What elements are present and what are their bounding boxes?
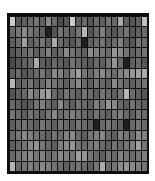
heatmap-cell — [100, 58, 105, 67]
heatmap-cell — [82, 38, 87, 47]
heatmap-cell — [130, 141, 135, 150]
heatmap-cell — [34, 58, 39, 67]
heatmap-cell — [58, 151, 63, 160]
heatmap-cell — [118, 58, 123, 67]
heatmap-cell — [46, 141, 51, 150]
heatmap-cell — [16, 48, 21, 57]
heatmap-cell — [70, 100, 75, 109]
heatmap-cell — [118, 69, 123, 78]
heatmap-cell — [118, 17, 123, 26]
heatmap-cell — [130, 89, 135, 98]
heatmap-cell — [64, 131, 69, 140]
heatmap-cell — [82, 48, 87, 57]
heatmap-cell — [46, 48, 51, 57]
heatmap-cell — [58, 100, 63, 109]
heatmap-cell — [130, 110, 135, 119]
heatmap-cell — [58, 27, 63, 36]
heatmap-cell — [82, 162, 87, 171]
heatmap-cell — [106, 141, 111, 150]
heatmap-cell — [94, 110, 99, 119]
heatmap-cell — [40, 79, 45, 88]
heatmap-cell — [136, 58, 141, 67]
heatmap-cell — [76, 120, 81, 129]
heatmap-cell — [46, 162, 51, 171]
heatmap-cell — [28, 141, 33, 150]
heatmap-cell — [52, 120, 57, 129]
heatmap-cell — [82, 58, 87, 67]
heatmap-cell — [40, 100, 45, 109]
heatmap-cell — [88, 110, 93, 119]
heatmap-cell — [46, 58, 51, 67]
heatmap-cell — [124, 141, 129, 150]
heatmap-cell — [100, 141, 105, 150]
heatmap-cell — [10, 27, 15, 36]
heatmap-cell — [76, 141, 81, 150]
heatmap-cell — [142, 131, 147, 140]
heatmap-cell — [34, 79, 39, 88]
heatmap-cell — [88, 69, 93, 78]
heatmap-cell — [52, 110, 57, 119]
heatmap-cell — [106, 100, 111, 109]
heatmap-cell — [76, 100, 81, 109]
heatmap-cell — [40, 38, 45, 47]
heatmap-cell — [82, 120, 87, 129]
heatmap-cell — [40, 27, 45, 36]
heatmap-cell — [124, 162, 129, 171]
heatmap-cell — [22, 58, 27, 67]
heatmap-cell — [124, 17, 129, 26]
heatmap-cell — [94, 17, 99, 26]
heatmap-cell — [16, 100, 21, 109]
heatmap-cell — [142, 38, 147, 47]
heatmap-cell — [28, 120, 33, 129]
heatmap-cell — [34, 162, 39, 171]
heatmap-cell — [94, 120, 99, 129]
heatmap-cell — [112, 151, 117, 160]
heatmap-cell — [142, 120, 147, 129]
heatmap-cell — [58, 131, 63, 140]
heatmap-cell — [70, 17, 75, 26]
heatmap-cell — [118, 38, 123, 47]
heatmap-cell — [100, 48, 105, 57]
heatmap-cell — [88, 17, 93, 26]
heatmap-cell — [76, 38, 81, 47]
heatmap-cell — [40, 89, 45, 98]
heatmap-cell — [88, 141, 93, 150]
heatmap-cell — [118, 79, 123, 88]
heatmap-cell — [70, 27, 75, 36]
heatmap-cell — [88, 58, 93, 67]
heatmap-cell — [130, 100, 135, 109]
heatmap-cell — [16, 110, 21, 119]
heatmap-cell — [124, 151, 129, 160]
heatmap-cell — [28, 17, 33, 26]
heatmap-cell — [94, 38, 99, 47]
heatmap-cell — [112, 17, 117, 26]
heatmap-cell — [142, 100, 147, 109]
heatmap-cell — [136, 69, 141, 78]
heatmap-cell — [112, 79, 117, 88]
heatmap-cell — [22, 69, 27, 78]
heatmap-cell — [136, 48, 141, 57]
heatmap-cell — [88, 151, 93, 160]
heatmap-cell — [46, 100, 51, 109]
heatmap-cell — [40, 17, 45, 26]
heatmap-cell — [118, 141, 123, 150]
heatmap-cell — [40, 58, 45, 67]
heatmap-cell — [76, 27, 81, 36]
heatmap-cell — [118, 89, 123, 98]
heatmap-cell — [142, 69, 147, 78]
heatmap-cell — [76, 17, 81, 26]
heatmap-cell — [22, 151, 27, 160]
heatmap-cell — [106, 48, 111, 57]
heatmap-cell — [64, 162, 69, 171]
heatmap-cell — [52, 58, 57, 67]
heatmap-cell — [58, 120, 63, 129]
heatmap-cell — [64, 58, 69, 67]
heatmap-cell — [82, 110, 87, 119]
heatmap-cell — [58, 58, 63, 67]
heatmap-cell — [142, 110, 147, 119]
heatmap-cell — [130, 162, 135, 171]
heatmap-cell — [76, 79, 81, 88]
heatmap-cell — [22, 100, 27, 109]
heatmap-cell — [112, 89, 117, 98]
heatmap-cell — [46, 120, 51, 129]
